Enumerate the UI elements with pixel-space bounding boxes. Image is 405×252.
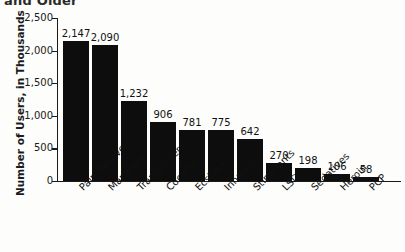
bar-value-label: 775 xyxy=(211,117,230,128)
bar[interactable] xyxy=(63,41,89,181)
y-tick-label: 1,000 xyxy=(24,110,53,121)
y-axis-label: Number of Users, in Thousands xyxy=(14,16,26,196)
y-tick-label: 2,000 xyxy=(24,45,53,56)
y-tick-label: 0 xyxy=(47,175,53,186)
y-tick-label: 500 xyxy=(34,142,53,153)
bar-value-label: 642 xyxy=(240,126,259,137)
y-tick-label: 1,500 xyxy=(24,77,53,88)
y-axis-line xyxy=(57,18,58,181)
y-tick-label: 2,500 xyxy=(24,12,53,23)
bar-value-label: 781 xyxy=(182,117,201,128)
chart-title: and Older xyxy=(4,0,78,8)
bar-slot[interactable]: 58 xyxy=(353,18,379,181)
bar-value-label: 198 xyxy=(298,155,317,166)
bar-slot[interactable]: 198 xyxy=(295,18,321,181)
bar-value-label: 906 xyxy=(153,109,172,120)
bar-chart: and Older Number of Users, in Thousands … xyxy=(0,0,405,252)
bar-slot[interactable]: 2,147 xyxy=(63,18,89,181)
bar-value-label: 2,090 xyxy=(91,32,120,43)
bar-value-label: 2,147 xyxy=(62,28,91,39)
bar-slot[interactable]: 775 xyxy=(208,18,234,181)
bar-value-label: 1,232 xyxy=(120,88,149,99)
